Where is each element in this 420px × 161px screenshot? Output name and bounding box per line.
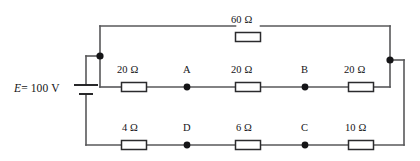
circuit-schematic-svg: [0, 0, 420, 161]
resistor-label-mid-left-20: 20 Ω: [117, 65, 138, 76]
node-label-D: D: [183, 123, 191, 134]
node-label-C: C: [301, 123, 308, 134]
node-dot-right-junction: [386, 56, 393, 63]
resistor-label-bot-center-6: 6 Ω: [236, 123, 252, 134]
circuit-diagram-figure: E= 100 V 60 Ω 20 Ω 20 Ω 20 Ω 4 Ω 6 Ω 10 …: [0, 0, 420, 161]
node-dot-D: [184, 142, 191, 149]
node-dot-left-junction: [96, 52, 103, 59]
resistor-body-bot-left-4: [122, 141, 147, 150]
node-dot-A: [184, 84, 191, 91]
resistor-body-mid-center-20: [236, 83, 261, 92]
resistor-label-mid-center-20: 20 Ω: [231, 65, 252, 76]
node-dot-B: [302, 84, 309, 91]
resistor-body-bot-right-10: [349, 141, 374, 150]
resistor-body-mid-right-20: [349, 83, 374, 92]
emf-value: 100: [31, 82, 49, 94]
resistor-label-top-60: 60 Ω: [231, 15, 252, 26]
resistor-body-top-60: [236, 33, 261, 42]
resistor-label-bot-left-4: 4 Ω: [122, 123, 138, 134]
node-dot-C: [302, 142, 309, 149]
node-label-B: B: [301, 65, 308, 76]
battery-branch-wires: [86, 56, 100, 145]
battery-cell-symbol: [74, 85, 98, 94]
emf-equals: =: [21, 82, 28, 94]
resistor-body-bot-center-6: [236, 141, 261, 150]
emf-source-label: E= 100 V: [14, 83, 60, 95]
node-label-A: A: [183, 65, 191, 76]
resistor-label-bot-right-10: 10 Ω: [345, 123, 366, 134]
resistor-body-mid-left-20: [122, 83, 147, 92]
resistor-label-mid-right-20: 20 Ω: [344, 65, 365, 76]
top-branch-wires: [100, 26, 390, 60]
emf-unit: V: [51, 82, 59, 94]
